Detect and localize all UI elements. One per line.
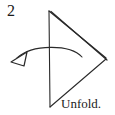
- unfold-caption-label: Unfold.: [61, 97, 101, 110]
- upper-edge-line-inner: [51, 12, 107, 61]
- step-number-label: 2: [7, 3, 15, 19]
- fold-spine-line: [49, 11, 50, 107]
- unfold-arrowhead-icon: [11, 52, 27, 66]
- origami-step-figure: 2 Unfold.: [0, 0, 115, 115]
